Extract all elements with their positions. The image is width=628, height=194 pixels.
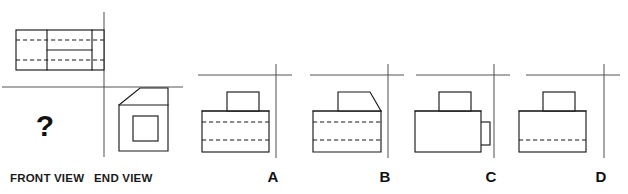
end-view: [119, 88, 168, 151]
option-d-boss: [543, 92, 575, 111]
orthographic-projection-puzzle: ? A B C: [0, 0, 628, 194]
puzzle-drawing-canvas: ? A B C: [0, 0, 628, 194]
option-d-letter: D: [596, 168, 607, 185]
option-b-letter: B: [380, 168, 391, 185]
option-a-letter: A: [268, 168, 279, 185]
option-c-boss: [439, 92, 471, 111]
end-view-label: END VIEW: [94, 172, 152, 184]
option-a-boss: [227, 92, 259, 111]
option-b-boss-chamfered: [338, 92, 381, 111]
plan-view: [16, 30, 104, 70]
option-b-figure[interactable]: B: [310, 64, 404, 185]
option-a-figure[interactable]: A: [198, 64, 292, 185]
option-c-body: [415, 111, 481, 152]
front-view-label: FRONT VIEW: [10, 172, 84, 184]
front-view-question-mark: ?: [36, 109, 54, 142]
option-a-body: [202, 111, 269, 152]
option-b-body: [313, 111, 381, 152]
option-d-body: [519, 111, 586, 152]
option-d-figure[interactable]: D: [519, 64, 620, 185]
option-c-figure[interactable]: C: [415, 64, 510, 185]
option-c-letter: C: [486, 168, 497, 185]
